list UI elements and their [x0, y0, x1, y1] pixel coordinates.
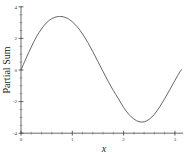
y-tick-label: 4 — [15, 5, 18, 10]
x-tick-label: 1 — [71, 137, 74, 142]
partial-sum-line — [21, 16, 182, 122]
y-tick-label: 0 — [15, 68, 18, 73]
x-tick-label: 0 — [20, 137, 23, 142]
x-axis: 0123 — [20, 131, 183, 143]
y-axis-label: Partial Sum — [1, 46, 12, 93]
line-chart: 420-2-4 0123 Partial Sum x — [0, 0, 186, 157]
x-axis-label: x — [101, 143, 107, 154]
y-tick-label: 2 — [15, 36, 18, 41]
y-tick-label: -4 — [13, 131, 18, 136]
x-tick-label: 3 — [174, 137, 177, 142]
y-tick-label: -2 — [13, 99, 18, 104]
x-tick-label: 2 — [122, 137, 125, 142]
y-axis: 420-2-4 — [13, 5, 24, 136]
